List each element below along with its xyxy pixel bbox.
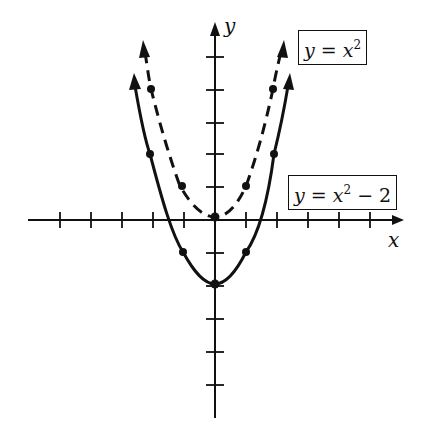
y-axis-label: y bbox=[224, 14, 235, 38]
curve1-label-eq: = bbox=[315, 39, 343, 61]
curve1-label-exp: 2 bbox=[353, 38, 361, 52]
curve2-label-eq: = bbox=[305, 184, 333, 206]
curve2-label-exp: 2 bbox=[343, 183, 351, 197]
curve2-label-box: y = x2 − 2 bbox=[288, 175, 397, 210]
curve2-label-rhs: x bbox=[333, 184, 344, 206]
curve1-label-rhs: x bbox=[343, 39, 354, 61]
curve1-label-var: y bbox=[304, 39, 315, 61]
curve-y-equals-x-squared-minus-2 bbox=[129, 73, 294, 289]
curve2-label-var: y bbox=[294, 184, 305, 206]
x-axis-label: x bbox=[388, 228, 399, 252]
curve1-label-box: y = x2 bbox=[298, 30, 367, 65]
graph-canvas bbox=[0, 0, 433, 443]
curve2-label-tail: − 2 bbox=[351, 184, 391, 206]
